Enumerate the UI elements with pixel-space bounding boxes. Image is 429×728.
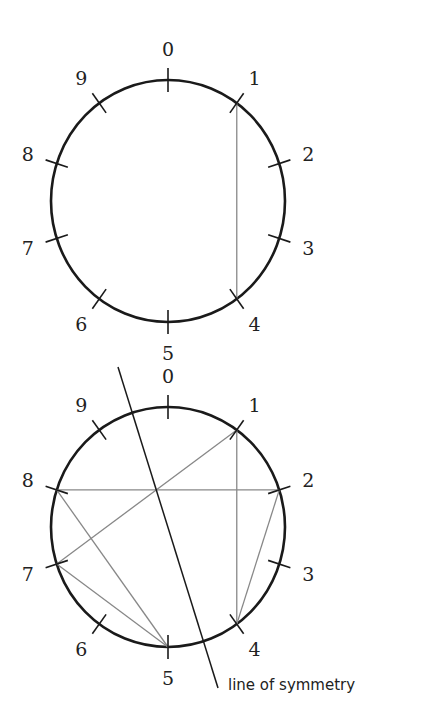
digit-label-6: 6 [75, 638, 87, 660]
chord-8-5 [57, 490, 168, 647]
digit-label-1: 1 [249, 394, 261, 416]
tick-mark [92, 420, 106, 439]
digit-label-0: 0 [162, 365, 174, 387]
digit-label-8: 8 [22, 143, 34, 165]
digit-label-7: 7 [22, 237, 34, 259]
circle-diagrams: 0123456789 0123456789 line of symmetry [0, 0, 429, 728]
tick-mark [92, 289, 106, 309]
digit-label-9: 9 [75, 394, 87, 416]
digit-label-2: 2 [302, 469, 314, 491]
top-circle-diagram: 0123456789 [22, 38, 315, 365]
tick-mark [92, 614, 106, 633]
chord-7-1 [57, 430, 237, 564]
digit-label-7: 7 [22, 563, 34, 585]
digit-label-9: 9 [75, 67, 87, 89]
digit-label-4: 4 [249, 313, 261, 335]
symmetry-caption: line of symmetry [228, 676, 355, 694]
digit-label-3: 3 [302, 237, 314, 259]
circle-outline [51, 80, 285, 322]
tick-mark [92, 93, 106, 113]
digit-label-1: 1 [249, 67, 261, 89]
digit-label-3: 3 [302, 563, 314, 585]
digit-label-0: 0 [162, 38, 174, 60]
digit-label-4: 4 [249, 638, 261, 660]
digit-label-5: 5 [162, 342, 174, 364]
chord-5-7 [57, 564, 168, 647]
digit-label-2: 2 [302, 143, 314, 165]
digit-label-5: 5 [162, 667, 174, 689]
digit-label-6: 6 [75, 313, 87, 335]
digit-label-8: 8 [22, 469, 34, 491]
